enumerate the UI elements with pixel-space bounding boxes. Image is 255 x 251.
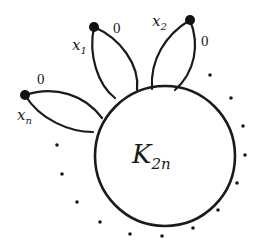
ellipsis-dot	[60, 172, 64, 176]
ellipsis-dot	[55, 143, 59, 147]
edge-weight-x1: 0	[113, 20, 121, 36]
petal-x1: x1 0	[72, 20, 137, 98]
central-label: K2n	[131, 139, 171, 173]
ellipsis-dot	[208, 73, 212, 77]
vertex-x1-label: x1	[72, 36, 87, 56]
ellipsis-dot	[128, 232, 132, 236]
petal-xn-upper-edge	[25, 91, 102, 118]
ellipsis-dot	[98, 220, 102, 224]
edge-weight-xn: 0	[37, 71, 45, 87]
ellipsis-dot	[235, 181, 239, 185]
diagram-canvas: K2n x1 0 x2 0 xn 0	[0, 0, 255, 251]
vertex-x2-label: x2	[152, 12, 167, 32]
ellipsis-dot	[191, 226, 195, 230]
vertex-xn	[20, 90, 30, 100]
vertex-x2	[185, 15, 195, 25]
central-node-k2n: K2n	[95, 86, 235, 226]
vertex-xn-label: xn	[17, 106, 32, 126]
ellipsis-dot	[229, 96, 233, 100]
ellipsis-dot	[216, 208, 220, 212]
ellipsis-dot	[241, 124, 245, 128]
petal-x2: x2 0	[152, 12, 209, 90]
petal-xn: xn 0	[17, 71, 102, 132]
ellipsis-dot	[75, 200, 79, 204]
ellipsis-dot	[243, 153, 247, 157]
vertex-x1	[89, 22, 99, 32]
edge-weight-x2: 0	[201, 33, 209, 49]
ellipsis-dot	[160, 234, 164, 238]
petal-x2-right-edge	[175, 20, 195, 90]
